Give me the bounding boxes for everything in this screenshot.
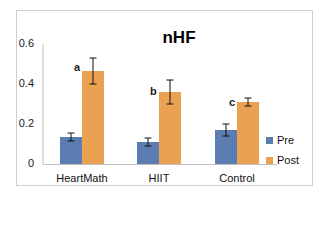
legend-swatch-pre: [266, 137, 273, 144]
x-tick-label-hiit: HIIT: [124, 172, 194, 184]
significance-label-a: a: [74, 61, 80, 73]
x-tick-label-control: Control: [202, 172, 272, 184]
legend-label-post: Post: [277, 154, 299, 166]
y-tick-label: 0.2: [10, 117, 34, 129]
significance-label-c: c: [229, 96, 235, 108]
bar-series: [60, 58, 259, 164]
legend-swatch-post: [266, 157, 273, 164]
bar-post-heartmath: [82, 71, 104, 164]
legend-label-pre: Pre: [277, 134, 294, 146]
y-tick-label: 0.4: [10, 77, 34, 89]
legend-item-pre: Pre: [266, 130, 299, 150]
x-tick-label-heartmath: HeartMath: [47, 172, 117, 184]
y-tick-label: 0.6: [10, 37, 34, 49]
bar-post-control: [237, 102, 259, 164]
y-tick-label: 0: [10, 157, 34, 169]
legend: Pre Post: [266, 130, 299, 170]
significance-label-b: b: [150, 85, 157, 97]
legend-item-post: Post: [266, 150, 299, 170]
